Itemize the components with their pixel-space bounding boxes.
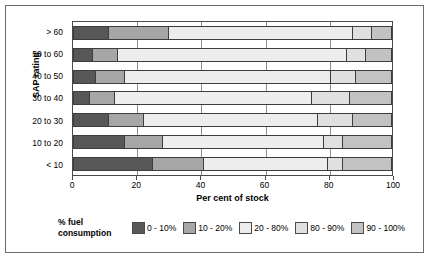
x-axis-tickmark xyxy=(393,176,394,180)
bar-segment xyxy=(163,136,325,148)
legend-item[interactable]: 80 - 90% xyxy=(295,222,344,234)
bar-row xyxy=(73,26,392,40)
x-axis-tickmark xyxy=(265,176,266,180)
y-axis-tick-label: 40 to 50 xyxy=(0,69,68,83)
bar-segment xyxy=(353,114,391,126)
bar-row xyxy=(73,135,392,149)
x-axis-tickmark xyxy=(136,176,137,180)
legend-swatch xyxy=(295,222,308,234)
bar-segment xyxy=(74,27,109,39)
x-axis-tick-label: 0 xyxy=(70,180,75,190)
bar-segment xyxy=(74,71,96,83)
chart-figure: SAP rating > 6050 to 6040 to 5030 to 402… xyxy=(0,0,429,258)
bar-segment xyxy=(90,92,115,104)
bar-row xyxy=(73,157,392,171)
legend-item[interactable]: 90 - 100% xyxy=(351,222,405,234)
bar-row xyxy=(73,48,392,62)
bar-segment xyxy=(125,71,331,83)
legend-item[interactable]: 0 - 10% xyxy=(132,222,176,234)
legend-title: % fuel consumption xyxy=(58,217,132,239)
bar-segment xyxy=(96,71,125,83)
bar-segment xyxy=(115,92,312,104)
legend-label: 10 - 20% xyxy=(198,223,232,233)
legend: % fuel consumption 0 - 10%10 - 20%20 - 8… xyxy=(58,212,418,244)
bar-segment xyxy=(74,158,153,170)
legend-items: 0 - 10%10 - 20%20 - 80%80 - 90%90 - 100% xyxy=(132,222,418,234)
bar-segment xyxy=(343,136,391,148)
legend-title-line-1: % fuel xyxy=(58,217,132,228)
bar-segment xyxy=(324,136,343,148)
bar-segment xyxy=(109,114,144,126)
x-axis-tick-label: 80 xyxy=(324,180,333,190)
x-axis-tickmark xyxy=(72,176,73,180)
plot-area xyxy=(72,21,393,176)
y-axis-tick-label: 50 to 60 xyxy=(0,47,68,61)
bar-segment xyxy=(347,49,366,61)
bar-segment xyxy=(144,114,318,126)
bar-segment xyxy=(125,136,163,148)
bar-segment xyxy=(74,114,109,126)
x-axis-tick-labels: 020406080100 xyxy=(72,180,393,192)
bar-segment xyxy=(343,158,391,170)
legend-label: 90 - 100% xyxy=(366,223,405,233)
bar-segment xyxy=(118,49,346,61)
y-axis-tick-label: > 60 xyxy=(0,25,68,39)
x-axis-tickmark xyxy=(200,176,201,180)
y-axis-tick-label: 20 to 30 xyxy=(0,114,68,128)
bar-segment xyxy=(328,158,344,170)
x-axis-tickmark xyxy=(329,176,330,180)
bar-rows xyxy=(73,22,392,175)
bar-row xyxy=(73,70,392,84)
bar-segment xyxy=(353,27,372,39)
legend-label: 0 - 10% xyxy=(147,223,176,233)
legend-swatch xyxy=(183,222,196,234)
x-axis-title: Per cent of stock xyxy=(72,193,393,203)
bar-segment xyxy=(74,136,125,148)
legend-swatch xyxy=(132,222,145,234)
legend-title-line-2: consumption xyxy=(58,228,132,239)
bar-segment xyxy=(331,71,356,83)
bar-segment xyxy=(93,49,118,61)
y-axis-tick-label: 30 to 40 xyxy=(0,91,68,105)
x-axis-tick-label: 20 xyxy=(131,180,140,190)
bar-segment xyxy=(356,71,391,83)
y-axis-tick-label: < 10 xyxy=(0,158,68,172)
bar-segment xyxy=(109,27,169,39)
legend-label: 80 - 90% xyxy=(310,223,344,233)
bar-row xyxy=(73,113,392,127)
y-axis-tick-labels: > 6050 to 6040 to 5030 to 4020 to 3010 t… xyxy=(0,21,68,176)
x-axis-tick-label: 100 xyxy=(386,180,400,190)
legend-label: 20 - 80% xyxy=(254,223,288,233)
bar-segment xyxy=(204,158,328,170)
bar-segment xyxy=(318,114,353,126)
legend-item[interactable]: 10 - 20% xyxy=(183,222,232,234)
y-axis-tick-label: 10 to 20 xyxy=(0,136,68,150)
bar-segment xyxy=(74,49,93,61)
legend-swatch xyxy=(351,222,364,234)
legend-swatch xyxy=(239,222,252,234)
x-axis-tick-label: 40 xyxy=(196,180,205,190)
bar-segment xyxy=(74,92,90,104)
bar-segment xyxy=(312,92,350,104)
bar-segment xyxy=(350,92,391,104)
x-axis-tick-label: 60 xyxy=(260,180,269,190)
legend-item[interactable]: 20 - 80% xyxy=(239,222,288,234)
bar-segment xyxy=(366,49,391,61)
bar-row xyxy=(73,91,392,105)
bar-segment xyxy=(153,158,204,170)
bar-segment xyxy=(169,27,353,39)
bar-segment xyxy=(372,27,391,39)
